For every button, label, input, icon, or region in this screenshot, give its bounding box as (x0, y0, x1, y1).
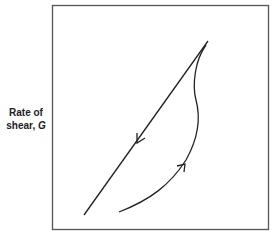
up-curve (119, 45, 206, 212)
plot-frame (53, 6, 269, 230)
down-line (84, 41, 208, 215)
diagram-canvas (0, 0, 277, 237)
